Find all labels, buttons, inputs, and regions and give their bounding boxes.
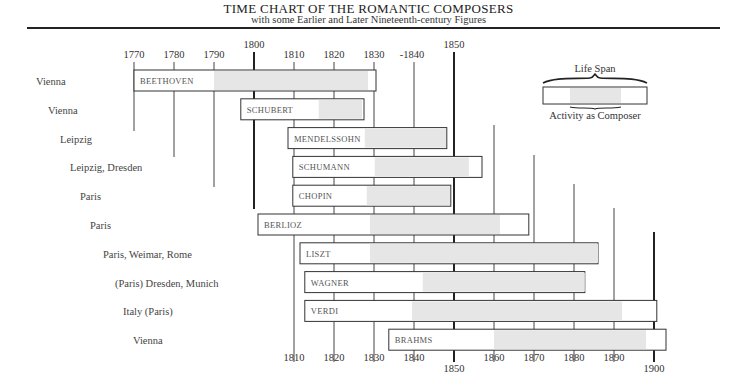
city-label: Paris <box>80 191 101 202</box>
top-tick-1840: -1840 <box>400 49 425 60</box>
bottom-tick-1900: 1900 <box>644 363 665 374</box>
composer-name: LISZT <box>306 249 331 259</box>
time-chart: 1770178017901800181018201830-18401850 18… <box>0 0 737 375</box>
composer-name: BEETHOVEN <box>140 76 194 86</box>
city-label: Italy (Paris) <box>123 306 173 318</box>
bottom-tick-1880: 1880 <box>564 352 585 363</box>
composer-bar-schumann: SCHUMANN <box>293 156 482 177</box>
activity-brace-icon <box>570 107 621 109</box>
composer-name: BERLIOZ <box>264 220 302 230</box>
bottom-tick-1840: 1840 <box>404 352 425 363</box>
activity-bar <box>423 273 585 292</box>
composer-name: BRAHMS <box>395 335 433 345</box>
composer-bar-wagner: WAGNER <box>305 272 585 293</box>
activity-bar <box>365 129 446 148</box>
activity-bar <box>214 71 368 90</box>
composer-name: SCHUBERT <box>247 105 294 115</box>
city-label: Vienna <box>36 76 66 87</box>
composer-bar-mendelssohn: MENDELSSOHN <box>288 128 447 149</box>
city-label: Leipzig, Dresden <box>70 162 143 173</box>
composer-name: SCHUMANN <box>299 162 350 172</box>
composer-bar-beethoven: BEETHOVEN <box>134 70 376 91</box>
activity-bar <box>370 244 598 263</box>
composer-name: WAGNER <box>311 278 349 288</box>
top-axis: 1770178017901800181018201830-18401850 <box>124 39 465 60</box>
activity-bar <box>412 301 622 320</box>
bottom-tick-1870: 1870 <box>524 352 545 363</box>
composer-name: CHOPIN <box>299 191 332 201</box>
activity-bar <box>494 330 646 349</box>
bottom-axis: 1810182018301840185018601870188018901900 <box>284 352 665 374</box>
city-label: Leipzig <box>60 134 93 145</box>
top-tick-1790: 1790 <box>204 49 225 60</box>
city-label: Paris <box>90 220 111 231</box>
bottom-tick-1810: 1810 <box>284 352 305 363</box>
composer-bar-chopin: CHOPIN <box>293 185 451 206</box>
life-span-brace-icon <box>543 74 647 83</box>
city-label: Paris, Weimar, Rome <box>103 249 192 260</box>
composer-name: MENDELSSOHN <box>294 134 361 144</box>
bottom-tick-1830: 1830 <box>364 352 385 363</box>
top-tick-1850: 1850 <box>444 39 465 50</box>
composer-bar-brahms: BRAHMS <box>389 329 666 350</box>
legend: Life Span Activity as Composer <box>543 63 647 121</box>
composer-bar-verdi: VERDI <box>305 300 657 321</box>
bottom-tick-1820: 1820 <box>324 352 345 363</box>
top-tick-1820: 1820 <box>324 49 345 60</box>
top-tick-1800: 1800 <box>244 39 265 50</box>
composer-bar-berlioz: BERLIOZ <box>258 214 529 235</box>
legend-activity-swatch <box>570 88 621 103</box>
city-label: (Paris) Dresden, Munich <box>115 278 219 290</box>
bottom-tick-1850: 1850 <box>444 363 465 374</box>
activity-bar <box>375 157 469 176</box>
city-label: Vienna <box>133 335 163 346</box>
legend-activity-label: Activity as Composer <box>549 110 641 121</box>
composer-name: VERDI <box>311 306 338 316</box>
bottom-tick-1860: 1860 <box>484 352 505 363</box>
composer-bar-liszt: LISZT <box>300 243 598 264</box>
activity-bar <box>370 215 500 234</box>
activity-bar <box>319 100 362 119</box>
activity-bar <box>367 186 450 205</box>
legend-life-span-label: Life Span <box>574 63 616 74</box>
city-labels: ViennaViennaLeipzigLeipzig, DresdenParis… <box>36 76 219 346</box>
composer-bar-schubert: SCHUBERT <box>241 99 364 120</box>
top-tick-1780: 1780 <box>164 49 185 60</box>
top-tick-1830: 1830 <box>364 49 385 60</box>
top-tick-1810: 1810 <box>284 49 305 60</box>
city-label: Vienna <box>48 105 78 116</box>
bottom-tick-1890: 1890 <box>604 352 625 363</box>
top-tick-1770: 1770 <box>124 49 145 60</box>
